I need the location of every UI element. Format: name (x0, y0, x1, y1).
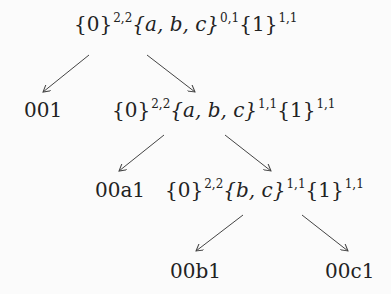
leaf-00b1: 00b1 (170, 261, 221, 281)
edge-n3-to-00c1 (302, 215, 348, 251)
edge-root-to-n2 (147, 55, 195, 92)
set-abc: {a, b, c}1,1 (170, 98, 277, 122)
edge-n2-to-00a1 (119, 135, 164, 171)
node-n3: {0}2,2{b, c}1,1{1}1,1 (165, 180, 364, 200)
leaf-001: 001 (24, 100, 62, 120)
edges-layer (0, 0, 391, 294)
set-abc: {a, b, c}0,1 (132, 12, 239, 36)
set-one: {1}1,1 (239, 12, 297, 36)
set-zero: {0}2,2 (74, 12, 132, 36)
leaf-00a1: 00a1 (95, 180, 145, 200)
edge-n3-to-00b1 (196, 215, 243, 251)
edge-root-to-001 (43, 55, 89, 92)
edge-n2-to-n3 (225, 135, 271, 171)
set-zero: {0}2,2 (112, 98, 170, 122)
leaf-00c1: 00c1 (325, 261, 374, 281)
set-bc: {b, c}1,1 (223, 178, 305, 202)
set-zero: {0}2,2 (165, 178, 223, 202)
set-one: {1}1,1 (306, 178, 364, 202)
node-n2: {0}2,2{a, b, c}1,1{1}1,1 (112, 100, 335, 120)
node-root: {0}2,2{a, b, c}0,1{1}1,1 (74, 14, 297, 34)
set-one: {1}1,1 (277, 98, 335, 122)
